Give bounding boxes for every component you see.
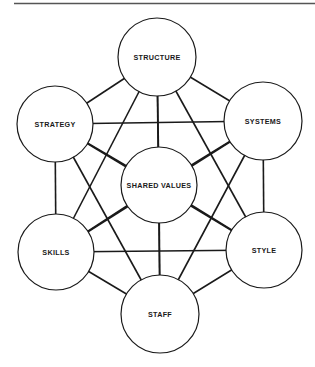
node-style: STYLE xyxy=(226,212,302,288)
node-label: STRATEGY xyxy=(34,120,75,129)
node-skills: SKILLS xyxy=(18,214,94,290)
seven-s-diagram: STRUCTURESTRATEGYSYSTEMSSHARED VALUESSKI… xyxy=(0,0,315,367)
node-label: STAFF xyxy=(148,310,172,319)
node-staff: STAFF xyxy=(121,275,199,353)
node-label: STYLE xyxy=(252,246,277,255)
node-label: SYSTEMS xyxy=(245,117,281,126)
node-label: STRUCTURE xyxy=(133,53,180,62)
nodes: STRUCTURESTRATEGYSYSTEMSSHARED VALUESSKI… xyxy=(17,18,302,353)
node-structure: STRUCTURE xyxy=(118,18,196,96)
node-shared-values: SHARED VALUES xyxy=(121,147,197,223)
node-label: SKILLS xyxy=(42,248,69,257)
node-strategy: STRATEGY xyxy=(17,86,93,162)
node-systems: SYSTEMS xyxy=(224,82,302,160)
node-label: SHARED VALUES xyxy=(127,181,192,190)
